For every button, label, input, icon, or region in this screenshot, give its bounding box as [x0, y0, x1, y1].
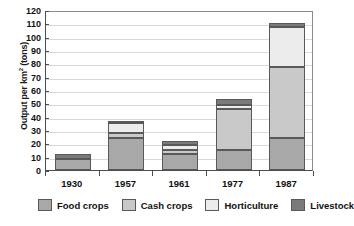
- legend-swatch-livestock: [291, 199, 305, 211]
- x-axis-tick-mark: [152, 171, 153, 176]
- bar-group-1961[interactable]: [162, 10, 198, 170]
- y-axis-tick-mark: [45, 158, 49, 159]
- bar-segment-1957-cash-crops[interactable]: [108, 133, 144, 138]
- bar-segment-1961-livestock[interactable]: [162, 141, 198, 145]
- y-axis-tick-mark: [45, 78, 49, 79]
- y-axis-tick-mark: [45, 24, 49, 25]
- bar-group-1977[interactable]: [216, 10, 252, 170]
- x-axis-tick-mark: [45, 171, 46, 176]
- bar-group-1957[interactable]: [108, 10, 144, 170]
- plot-area: [45, 11, 313, 171]
- legend-entry-cash-crops[interactable]: Cash crops: [122, 199, 193, 211]
- legend-swatch-horticulture: [205, 199, 219, 211]
- bar-group-1930[interactable]: [55, 10, 91, 170]
- bar-segment-1961-horticulture[interactable]: [162, 145, 198, 150]
- y-axis-tick-label: 120: [15, 7, 41, 16]
- legend-entry-livestock[interactable]: Livestock: [291, 199, 354, 211]
- y-axis-tick-label: 100: [15, 34, 41, 43]
- y-axis-tick-label: 60: [15, 87, 41, 96]
- bar-segment-1961-food-crops[interactable]: [162, 154, 198, 170]
- legend-swatch-food-crops: [38, 199, 52, 211]
- bar-segment-1957-livestock[interactable]: [108, 121, 144, 124]
- y-axis-tick-mark: [45, 91, 49, 92]
- bar-segment-1987-food-crops[interactable]: [269, 138, 305, 170]
- bar-segment-1961-cash-crops[interactable]: [162, 150, 198, 154]
- x-axis-tick-label-1987: 1987: [256, 178, 316, 189]
- x-axis-tick-mark: [99, 171, 100, 176]
- chart-legend: Food cropsCash cropsHorticultureLivestoc…: [38, 195, 318, 215]
- y-axis-tick-mark: [45, 11, 49, 12]
- y-axis-tick-label: 110: [15, 20, 41, 29]
- bar-segment-1987-horticulture[interactable]: [269, 27, 305, 67]
- legend-label: Food crops: [57, 200, 109, 211]
- y-axis-tick-mark: [45, 131, 49, 132]
- legend-label: Cash crops: [141, 200, 193, 211]
- legend-swatch-cash-crops: [122, 199, 136, 211]
- x-axis-tick-label-1957: 1957: [95, 178, 155, 189]
- y-axis-tick-label: 30: [15, 127, 41, 136]
- y-axis-tick-label: 0: [15, 167, 41, 176]
- y-axis-tick-labels: 0102030405060708090100110120: [11, 11, 41, 171]
- legend-label: Horticulture: [224, 200, 278, 211]
- y-axis-tick-label: 20: [15, 140, 41, 149]
- x-axis-tick-mark: [206, 171, 207, 176]
- x-axis-tick-label-1977: 1977: [203, 178, 263, 189]
- bar-segment-1957-food-crops[interactable]: [108, 138, 144, 170]
- x-axis-tick-label-1961: 1961: [149, 178, 209, 189]
- bar-segment-1977-livestock[interactable]: [216, 99, 252, 104]
- legend-entry-food-crops[interactable]: Food crops: [38, 199, 109, 211]
- y-axis-tick-label: 90: [15, 47, 41, 56]
- bar-group-1987[interactable]: [269, 10, 305, 170]
- y-axis-tick-mark: [45, 144, 49, 145]
- bar-segment-1930-food-crops[interactable]: [55, 159, 91, 170]
- bar-segment-1987-cash-crops[interactable]: [269, 67, 305, 138]
- bar-segment-1957-horticulture[interactable]: [108, 123, 144, 132]
- legend-label: Livestock: [310, 200, 354, 211]
- bar-segment-1977-cash-crops[interactable]: [216, 109, 252, 150]
- y-axis-tick-mark: [45, 51, 49, 52]
- bar-segment-1977-horticulture[interactable]: [216, 105, 252, 109]
- x-axis-tick-label-1930: 1930: [42, 178, 102, 189]
- y-axis-tick-label: 70: [15, 74, 41, 83]
- y-axis-tick-label: 40: [15, 114, 41, 123]
- y-axis-tick-label: 80: [15, 60, 41, 69]
- legend-entry-horticulture[interactable]: Horticulture: [205, 199, 278, 211]
- y-axis-tick-mark: [45, 64, 49, 65]
- x-axis-tick-mark: [313, 171, 314, 176]
- y-axis-tick-label: 50: [15, 100, 41, 109]
- bar-segment-1987-livestock[interactable]: [269, 23, 305, 27]
- y-axis-tick-mark: [45, 38, 49, 39]
- x-axis-tick-mark: [259, 171, 260, 176]
- bar-segment-1977-food-crops[interactable]: [216, 150, 252, 170]
- bar-segment-1930-livestock[interactable]: [55, 154, 91, 159]
- y-axis-tick-mark: [45, 118, 49, 119]
- y-axis-tick-label: 10: [15, 154, 41, 163]
- y-axis-tick-mark: [45, 104, 49, 105]
